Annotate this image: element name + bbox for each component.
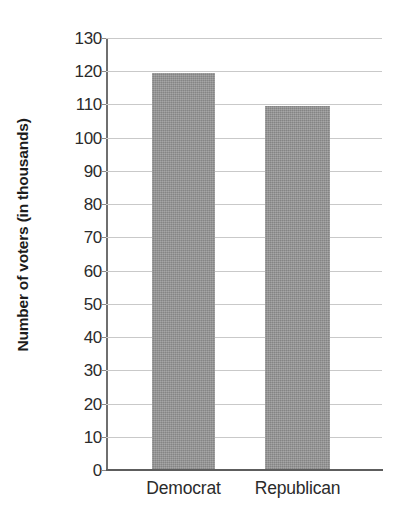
x-axis-tick-label-group: DemocratRepublican bbox=[106, 478, 382, 512]
y-axis-tick-mark bbox=[101, 71, 106, 72]
y-axis-tick-label: 10 bbox=[44, 428, 102, 445]
gridline bbox=[106, 237, 382, 238]
bar-democrat bbox=[152, 73, 215, 470]
y-axis-tick-label: 110 bbox=[44, 96, 102, 113]
gridline bbox=[106, 271, 382, 272]
y-axis-tick-mark bbox=[101, 304, 106, 305]
y-axis-tick-label-group: 0102030405060708090100110120130 bbox=[44, 0, 102, 529]
y-axis-tick-mark bbox=[101, 437, 106, 438]
gridline bbox=[106, 370, 382, 371]
gridline bbox=[106, 171, 382, 172]
y-axis-tick-mark bbox=[101, 204, 106, 205]
y-axis-tick-label: 90 bbox=[44, 162, 102, 179]
gridline bbox=[106, 138, 382, 139]
y-axis-tick-label: 100 bbox=[44, 129, 102, 146]
gridline bbox=[106, 204, 382, 205]
y-axis-tick-mark bbox=[101, 104, 106, 105]
y-axis-title: Number of voters (in thousands) bbox=[0, 0, 46, 470]
y-axis-tick-mark bbox=[101, 370, 106, 371]
y-axis-tick-label: 0 bbox=[44, 462, 102, 479]
y-axis-tick-label: 130 bbox=[44, 30, 102, 47]
y-axis-tick-label: 80 bbox=[44, 196, 102, 213]
y-axis-tick-label: 120 bbox=[44, 63, 102, 80]
y-axis-tick-mark bbox=[101, 337, 106, 338]
gridline bbox=[106, 38, 382, 39]
bar-chart-figure: Number of voters (in thousands) 01020304… bbox=[0, 0, 400, 529]
y-axis-tick-mark bbox=[101, 138, 106, 139]
y-axis-tick-label: 60 bbox=[44, 262, 102, 279]
y-axis-tick-label: 70 bbox=[44, 229, 102, 246]
gridline bbox=[106, 404, 382, 405]
gridline bbox=[106, 71, 382, 72]
y-axis-title-text: Number of voters (in thousands) bbox=[14, 118, 32, 351]
gridline bbox=[106, 337, 382, 338]
gridline bbox=[106, 304, 382, 305]
x-axis-baseline bbox=[106, 469, 383, 471]
y-axis-tick-label: 40 bbox=[44, 329, 102, 346]
plot-area bbox=[106, 38, 382, 470]
gridline bbox=[106, 437, 382, 438]
y-axis-tick-mark bbox=[101, 38, 106, 39]
y-axis-tick-label: 20 bbox=[44, 395, 102, 412]
x-axis-tick-label-republican: Republican bbox=[247, 478, 348, 498]
bar-republican bbox=[265, 106, 330, 470]
gridline bbox=[106, 104, 382, 105]
y-axis-tick-label: 50 bbox=[44, 295, 102, 312]
y-axis-tick-label: 30 bbox=[44, 362, 102, 379]
y-axis-tick-mark bbox=[101, 237, 106, 238]
x-axis-tick-label-democrat: Democrat bbox=[134, 478, 233, 498]
y-axis-tick-mark bbox=[101, 171, 106, 172]
y-axis-tick-mark bbox=[101, 404, 106, 405]
y-axis-tick-mark bbox=[101, 271, 106, 272]
